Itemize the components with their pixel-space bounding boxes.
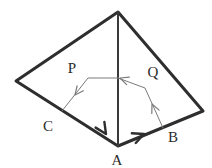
vector-P: [62, 78, 118, 111]
geometry-figure: P Q C A B: [0, 0, 212, 167]
label-B: B: [168, 130, 178, 145]
edge-arrowheads: [96, 122, 146, 143]
label-P: P: [68, 61, 76, 76]
label-A: A: [112, 153, 123, 168]
label-Q: Q: [148, 65, 159, 80]
label-C: C: [43, 119, 53, 134]
figure-canvas: [0, 0, 212, 167]
vector-Q: [118, 78, 163, 128]
vector-Q-arrowhead-1: [119, 74, 130, 84]
